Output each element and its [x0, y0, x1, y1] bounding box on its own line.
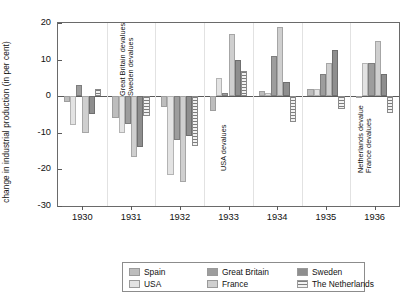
- group-separator-gridline: [350, 23, 351, 206]
- y-tick-mark: [58, 133, 62, 134]
- x-tick-mark: [180, 206, 181, 210]
- x-tick-label: 1932: [169, 212, 190, 222]
- legend-swatch-icon: [129, 268, 140, 276]
- x-tick-label: 1936: [364, 212, 385, 222]
- bar-the-netherlands-1932: [192, 96, 198, 145]
- group-separator-gridline: [204, 23, 205, 206]
- y-tick-mark: [58, 206, 62, 207]
- y-tick-label: -20: [38, 163, 51, 173]
- x-tick-label: 1930: [72, 212, 93, 222]
- legend-item-label: The Netherlands: [312, 280, 374, 289]
- y-tick-label: -30: [38, 200, 51, 210]
- legend-item-label: Spain: [144, 268, 165, 277]
- annotation-sweden-devalues: Sweden devalues: [126, 38, 135, 96]
- legend-swatch-icon: [129, 280, 140, 288]
- y-tick-mark: [58, 169, 62, 170]
- legend-swatch-icon: [207, 268, 218, 276]
- bar-the-netherlands-1934: [290, 96, 296, 122]
- group-separator-gridline: [302, 23, 303, 206]
- bar-great-britain-1930: [76, 85, 82, 96]
- bar-the-netherlands-1933: [241, 71, 247, 97]
- bar-sweden-1930: [89, 96, 95, 114]
- x-tick-label: 1931: [121, 212, 142, 222]
- group-separator-gridline: [155, 23, 156, 206]
- x-tick-label: 1933: [218, 212, 239, 222]
- x-tick-mark: [229, 206, 230, 210]
- y-axis-label: change in industrial production (in per …: [2, 4, 16, 240]
- bar-sweden-1935: [332, 50, 338, 96]
- legend: SpainGreat BritainSwedenUSAFranceThe Net…: [122, 262, 365, 292]
- legend-item-label: USA: [144, 280, 161, 289]
- annotation-usa-devalues: USA devalues: [219, 125, 228, 171]
- y-tick-label: 10: [41, 54, 51, 64]
- zero-line: [58, 96, 399, 97]
- y-tick-label: 20: [41, 17, 51, 27]
- x-tick-label: 1934: [267, 212, 288, 222]
- legend-item-great-britain[interactable]: Great Britain: [207, 268, 297, 277]
- bar-chart: change in industrial production (in per …: [0, 0, 417, 303]
- plot-area: 20100-10-20-3019301931193219331934193519…: [57, 22, 400, 207]
- bar-sweden-1934: [283, 82, 289, 97]
- legend-item-spain[interactable]: Spain: [129, 268, 207, 277]
- y-tick-label: 0: [46, 90, 51, 100]
- bar-sweden-1936: [381, 74, 387, 96]
- y-tick-mark: [58, 23, 62, 24]
- bar-the-netherlands-1931: [143, 96, 149, 116]
- bar-usa-1930: [70, 96, 76, 125]
- group-separator-gridline: [253, 23, 254, 206]
- bar-spain-1933: [210, 96, 216, 111]
- legend-item-usa[interactable]: USA: [129, 280, 207, 289]
- bar-spain-1936: [356, 96, 362, 98]
- legend-item-france[interactable]: France: [207, 280, 297, 289]
- y-tick-mark: [58, 60, 62, 61]
- group-separator-gridline: [107, 23, 108, 206]
- bar-the-netherlands-1936: [387, 96, 393, 112]
- legend-swatch-icon: [297, 280, 308, 288]
- x-tick-label: 1935: [316, 212, 337, 222]
- legend-item-label: France: [222, 280, 248, 289]
- y-tick-mark: [58, 96, 62, 97]
- x-tick-mark: [326, 206, 327, 210]
- legend-item-sweden[interactable]: Sweden: [297, 268, 374, 277]
- x-tick-mark: [131, 206, 132, 210]
- x-tick-mark: [82, 206, 83, 210]
- annotation-france-devalues: France devalues: [364, 118, 373, 173]
- x-tick-mark: [375, 206, 376, 210]
- legend-item-label: Sweden: [312, 268, 342, 277]
- x-tick-mark: [277, 206, 278, 210]
- bar-the-netherlands-1930: [95, 89, 101, 96]
- legend-item-the-netherlands[interactable]: The Netherlands: [297, 280, 374, 289]
- legend-swatch-icon: [297, 268, 308, 276]
- legend-item-label: Great Britain: [222, 268, 269, 277]
- legend-swatch-icon: [207, 280, 218, 288]
- y-tick-label: -10: [38, 127, 51, 137]
- bar-the-netherlands-1935: [338, 96, 344, 109]
